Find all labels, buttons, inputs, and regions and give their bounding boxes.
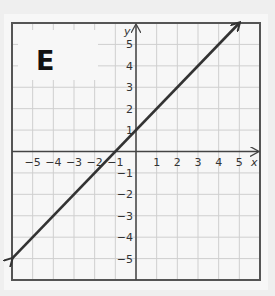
x-tick-label: 1 [153, 156, 160, 169]
panel-label: E [36, 45, 54, 76]
y-tick-label: 4 [126, 60, 133, 73]
x-tick-label: 3 [195, 156, 202, 169]
x-tick-label: −5 [25, 156, 41, 169]
x-tick-label: 2 [174, 156, 181, 169]
x-tick-label: 4 [215, 156, 222, 169]
y-axis-label: y [123, 25, 131, 38]
y-tick-label: 3 [126, 81, 133, 94]
coordinate-graph: −5−4−3−2−11234554321−1−2−3−4−5 x y E [0, 0, 275, 296]
label-backdrop [18, 30, 98, 80]
x-tick-label: −4 [45, 156, 61, 169]
x-tick-label: 5 [236, 156, 243, 169]
y-tick-label: −5 [117, 253, 133, 266]
y-tick-label: −2 [117, 188, 133, 201]
y-tick-label: −4 [117, 231, 133, 244]
y-tick-label: 5 [126, 38, 133, 51]
y-tick-label: 2 [126, 103, 133, 116]
y-tick-label: −3 [117, 210, 133, 223]
y-tick-label: −1 [117, 167, 133, 180]
x-tick-label: −3 [66, 156, 82, 169]
x-axis-label: x [250, 156, 258, 169]
